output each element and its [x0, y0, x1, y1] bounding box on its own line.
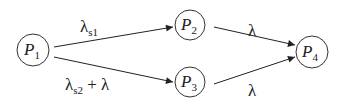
node-p3: P3 [175, 67, 205, 97]
edge-label-p3-p4: λ [248, 81, 257, 100]
edge-label-p2-p4: λ [248, 21, 257, 40]
edge-label-p1-p2: λs1 [80, 17, 98, 38]
diagram-canvas: λs1 λs2 + λ λ λ P1 P2 P3 P4 [0, 0, 345, 105]
node-p1: P1 [17, 34, 49, 66]
edge-p1-p2 [54, 27, 173, 47]
node-p4: P4 [296, 36, 328, 68]
edge-label-p1-p3: λs2 + λ [65, 75, 110, 96]
edge-p3-p4 [214, 57, 295, 84]
node-p2: P2 [175, 10, 205, 40]
